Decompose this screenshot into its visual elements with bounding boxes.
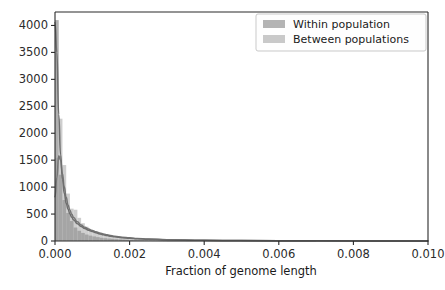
- histogram-bar: [96, 237, 100, 241]
- y-tick-label: 500: [26, 207, 48, 221]
- histogram-bar: [70, 221, 74, 241]
- legend-label-between-populations: Between populations: [293, 33, 409, 46]
- histogram-bar: [81, 233, 85, 241]
- x-tick-label: 0.000: [39, 247, 72, 261]
- legend-swatch-within-population: [263, 20, 285, 28]
- histogram-bar: [59, 175, 63, 241]
- x-tick-label: 0.008: [337, 247, 370, 261]
- x-tick-label: 0.006: [262, 247, 295, 261]
- histogram-chart: 0.0000.0020.0040.0060.0080.010 050010001…: [0, 0, 445, 290]
- x-axis-title: Fraction of genome length: [165, 264, 317, 278]
- y-tick-label: 1000: [19, 180, 48, 194]
- histogram-bar: [62, 200, 66, 241]
- y-tick-label: 3000: [19, 72, 48, 86]
- y-tick-label: 0: [41, 234, 48, 248]
- y-tick-label: 4000: [19, 18, 48, 32]
- histogram-bar: [89, 236, 93, 241]
- y-tick-label: 3500: [19, 45, 48, 59]
- x-tick-label: 0.002: [113, 247, 146, 261]
- histogram-bar: [85, 235, 89, 241]
- x-tick-label: 0.004: [188, 247, 221, 261]
- x-tick-label: 0.010: [412, 247, 445, 261]
- legend-label-within-population: Within population: [293, 18, 390, 31]
- histogram-bar: [74, 228, 78, 241]
- y-tick-label: 2500: [19, 99, 48, 113]
- y-tick-label: 2000: [19, 126, 48, 140]
- histogram-bar: [66, 213, 70, 241]
- y-tick-label: 1500: [19, 153, 48, 167]
- histogram-bar: [92, 236, 96, 241]
- histogram-bar: [77, 231, 81, 241]
- chart-legend[interactable]: Within population Between populations: [256, 14, 426, 51]
- figure-canvas: 0.0000.0020.0040.0060.0080.010 050010001…: [0, 0, 445, 290]
- legend-swatch-between-populations: [263, 35, 285, 43]
